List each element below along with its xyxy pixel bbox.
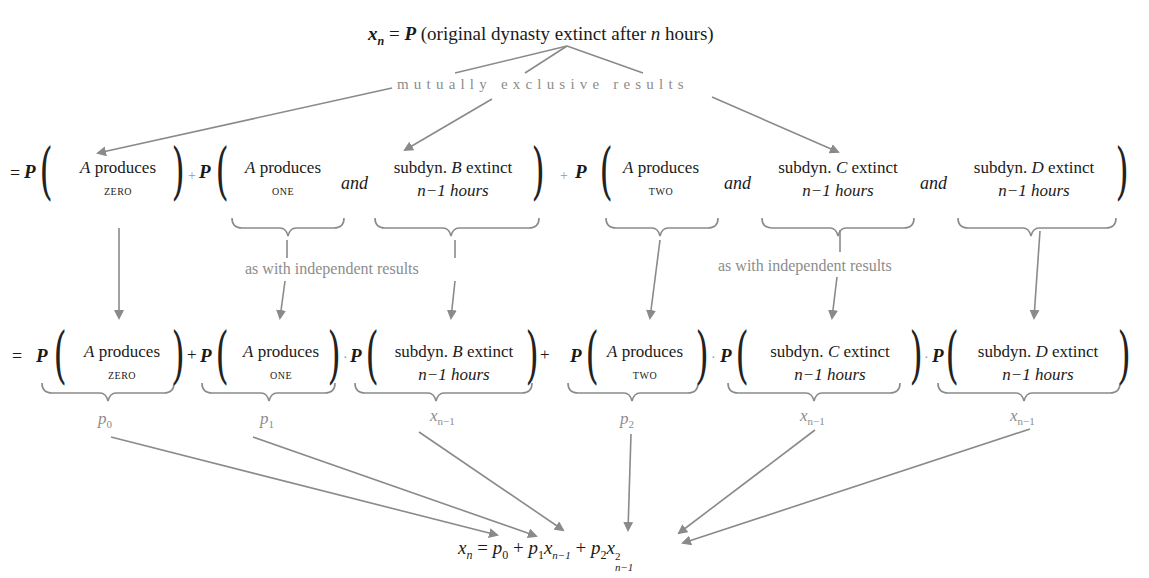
row1-term-one: A produces one (228, 156, 338, 202)
row2-term-two: A produces two (590, 340, 700, 386)
row2-dot-2: · (711, 350, 716, 366)
row1-paren-open-zero: ( (39, 140, 52, 202)
row2-plus-1: + (187, 345, 197, 365)
row1-plus-2: + (560, 168, 568, 184)
row1-term-zero: A produces zero (58, 156, 178, 202)
arrow-to-zero-term (98, 88, 392, 153)
title-eq: = (384, 23, 404, 44)
mutually-exclusive-label: mutually exclusive results (397, 77, 689, 92)
title-x: x (368, 23, 378, 44)
row2-P-d: P (932, 345, 944, 367)
row2-term-d: subdyn. D extinct n−1 hours (956, 340, 1120, 386)
row2-plus-2: + (540, 345, 550, 365)
row2-P-zero: P (36, 345, 48, 367)
row2-paren-close-c: ) (909, 324, 922, 386)
row1-term-d: subdyn. D extinct n−1 hours (954, 156, 1114, 202)
row2-paren-close-zero: ) (171, 324, 184, 386)
row2-P-c: P (720, 345, 732, 367)
title-n: n (651, 23, 661, 44)
row1-term-b: subdyn. B extinct n−1 hours (372, 156, 534, 202)
row1-paren-close-two-cd: ) (1115, 140, 1128, 202)
fan-line-left (455, 46, 567, 73)
brace-row1-d (958, 218, 1116, 236)
arrow-p2-to-result (628, 434, 631, 530)
brace-row1-b (375, 218, 539, 236)
title-text-close: hours) (660, 23, 713, 44)
arrow-xc-to-result (679, 430, 815, 533)
fan-line-right (567, 46, 643, 73)
arrow-p0-to-result (111, 437, 497, 535)
row2-paren-open-c: ( (735, 324, 748, 386)
label-p2: p2 (620, 409, 634, 430)
arrow-xd-to-result (683, 429, 1030, 543)
result-equation: xn = p0 + p1xn−1 + p2x2n−1 (458, 538, 633, 573)
row2-P-two: P (570, 345, 582, 367)
label-p1: p1 (260, 409, 274, 430)
arrow-to-one-term (405, 99, 492, 150)
row2-term-b: subdyn. B extinct n−1 hours (374, 340, 534, 386)
row1-paren-close-one-b: ) (531, 140, 544, 202)
extinction-probability-diagram: xn = P (original dynasty extinct after n… (0, 0, 1149, 578)
arrow-xb-to-result (419, 432, 563, 530)
row1-equals: = (10, 163, 20, 184)
arrow-p1-to-result (253, 437, 536, 536)
row1-paren-close-zero: ) (171, 140, 184, 202)
row2-paren-close-d: ) (1117, 324, 1130, 386)
row1-P-one-b: P (199, 161, 211, 183)
row1-term-c: subdyn. C extinct n−1 hours (758, 156, 918, 202)
arrow-one-down (280, 281, 285, 318)
row2-term-one: A produces one (226, 340, 336, 386)
row2-paren-open-zero: ( (53, 324, 66, 386)
row2-paren-close-b: ) (525, 324, 538, 386)
fan-line-mid (525, 46, 567, 73)
arrow-to-two-term (712, 97, 838, 152)
row2-term-c: subdyn. C extinct n−1 hours (748, 340, 912, 386)
row1-term-two: A produces two (606, 156, 716, 202)
row2-paren-close-two: ) (695, 324, 708, 386)
independent-results-label-left: as with independent results (245, 261, 419, 277)
arrow-b-down (451, 281, 455, 318)
label-x-c: xn−1 (800, 406, 825, 427)
label-p0: p0 (98, 409, 112, 430)
title-P: P (404, 23, 416, 44)
independent-results-label-right: as with independent results (718, 258, 892, 274)
brace-row1-one (232, 218, 344, 236)
row2-dot-3: · (924, 350, 929, 366)
arrow-d-down (1034, 231, 1040, 318)
title-text-open: (original dynasty extinct after (416, 23, 651, 44)
row1-and-3: and (920, 173, 947, 194)
arrow-two-down (650, 240, 660, 318)
label-x-b: xn−1 (430, 406, 455, 427)
row1-P-zero: P (24, 161, 36, 183)
row2-equals: = (12, 346, 22, 367)
arrow-c-down (832, 277, 837, 318)
row2-P-b: P (350, 345, 362, 367)
brace-row1-c (762, 218, 914, 236)
row2-P-one: P (200, 345, 212, 367)
row1-paren-open-one-b: ( (215, 140, 228, 202)
row2-paren-close-one: ) (327, 324, 340, 386)
row1-and-2: and (724, 173, 751, 194)
title-equation: xn = P (original dynasty extinct after n… (368, 24, 714, 47)
row2-dot-1: · (343, 350, 348, 366)
row1-P-two-cd: P (575, 161, 587, 183)
brace-row1-two (606, 218, 718, 236)
row1-plus-1: + (188, 168, 196, 184)
label-x-d: xn−1 (1010, 406, 1035, 427)
row2-term-zero: A produces zero (66, 340, 178, 386)
row1-and-1: and (341, 173, 368, 194)
